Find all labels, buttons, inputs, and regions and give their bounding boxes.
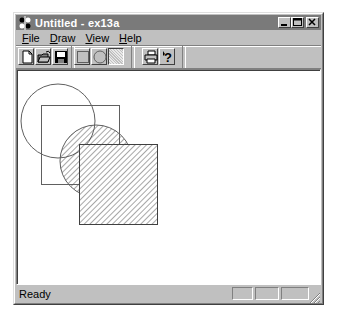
status-pane-2 [255,287,279,300]
new-button[interactable] [18,48,34,65]
open-button[interactable] [35,48,51,65]
minimize-icon [279,18,290,27]
menu-view-accel: V [85,32,92,44]
status-pane-1 [232,287,253,300]
new-document-icon [20,50,34,64]
resize-grip[interactable] [309,290,321,302]
menu-view[interactable]: View [80,31,114,45]
window-title: Untitled - ex13a [35,17,120,29]
maximize-button[interactable] [291,17,304,28]
menu-help[interactable]: Help [114,31,147,45]
drawing-canvas[interactable] [16,69,321,285]
save-button[interactable] [52,48,68,65]
menu-help-accel: H [119,32,127,44]
menu-view-label: iew [93,32,110,44]
status-text: Ready [19,288,51,300]
circle-icon [93,50,107,64]
rectangle-hatched-fill [80,145,158,225]
status-pane-3 [281,287,309,300]
menu-bar: File Draw View Help [17,31,147,45]
open-folder-icon [37,50,51,64]
app-icon[interactable] [18,16,32,30]
svg-text:?: ? [164,50,172,64]
menu-draw[interactable]: Draw [45,31,81,45]
caption-buttons [278,17,319,28]
printer-icon [144,50,158,64]
help-button[interactable]: ? [159,48,175,65]
menu-file-accel: F [22,32,29,44]
print-button[interactable] [142,48,158,65]
rectangle-button[interactable] [74,48,90,65]
resize-grip-icon [309,292,321,304]
status-bar: Ready [16,286,321,302]
menu-draw-accel: D [50,32,58,44]
circle-button[interactable] [91,48,107,65]
maximize-icon [292,18,303,27]
toolbar-separator [131,46,135,68]
minimize-button[interactable] [278,17,291,28]
floppy-disk-icon [54,50,68,64]
toolbar-separator [182,46,186,68]
app-window: Untitled - ex13a File Draw View Help [13,12,324,305]
title-bar[interactable]: Untitled - ex13a [16,15,321,30]
menu-help-label: elp [127,32,142,44]
context-help-icon: ? [161,50,175,64]
canvas-shapes [17,70,321,284]
menu-file-label: ile [29,32,40,44]
menu-file[interactable]: File [17,31,45,45]
pattern-button[interactable] [108,48,124,65]
close-icon [307,18,318,27]
close-button[interactable] [306,17,319,28]
toolbar: ? [16,45,321,69]
rectangle-icon [76,50,90,64]
menu-draw-label: raw [58,32,76,44]
hatch-pattern-icon [110,50,124,64]
